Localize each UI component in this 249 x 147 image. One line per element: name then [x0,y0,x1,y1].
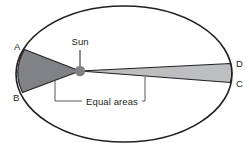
sector-left-equal-area [18,50,80,93]
sector-right-equal-area [80,64,232,83]
label-point-b: B [13,92,19,103]
label-point-a: A [14,41,21,52]
bracket-right [142,77,145,101]
bracket-left [55,79,82,101]
label-point-d: D [236,58,243,69]
sun-dot-icon [75,66,85,76]
label-equal-areas: Equal areas [86,96,138,107]
diagram-canvas: A B D C Sun Equal areas [0,0,249,147]
label-sun: Sun [72,36,89,47]
kepler-second-law-figure: A B D C Sun Equal areas [0,0,249,147]
label-point-c: C [236,78,243,89]
